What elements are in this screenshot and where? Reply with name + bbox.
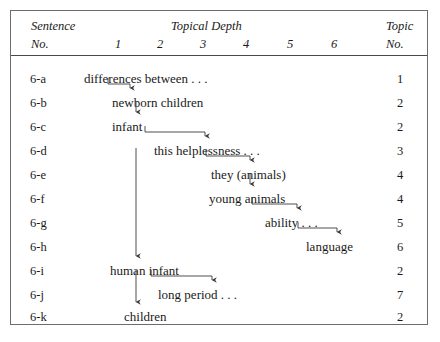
topic-number-cell: 2 [392,310,408,325]
topic-node-6k: children [124,309,167,325]
topic-number-cell: 1 [392,72,408,87]
column-header-topic-no: No. [386,37,404,52]
depth-column-2: 2 [152,37,168,52]
topic-number-cell: 2 [392,120,408,135]
topic-node-6e: they (animals) [211,167,286,183]
topic-node-6c: infant [112,119,142,135]
topic-number-cell: 2 [392,264,408,279]
topic-node-6a: differences between . . . [84,71,208,87]
topic-node-6f: young animals [209,191,285,207]
topic-number-cell: 7 [392,288,408,303]
topic-number-cell: 6 [392,240,408,255]
table-row-sentence-no: 6-f [30,192,45,207]
table-row-sentence-no: 6-b [30,96,47,111]
topic-number-cell: 2 [392,96,408,111]
topic-number-cell: 3 [392,144,408,159]
column-header-sentence: Sentence [31,19,75,34]
topic-node-6d: this helplessness . . . [154,143,260,159]
topic-number-cell: 4 [392,192,408,207]
topic-node-6h: language [306,239,353,255]
header-separator-rule [11,55,427,56]
table-row-sentence-no: 6-h [30,240,47,255]
depth-column-6: 6 [326,37,342,52]
topic-node-6j: long period . . . [158,287,237,303]
table-row-sentence-no: 6-g [30,216,47,231]
column-header-topical-depth: Topical Depth [171,19,242,34]
table-row-sentence-no: 6-e [30,168,46,183]
topic-number-cell: 5 [392,216,408,231]
column-header-sentence-no: No. [31,37,49,52]
topic-number-cell: 4 [392,168,408,183]
table-row-sentence-no: 6-c [30,120,46,135]
topical-depth-figure: Sentence No. Topical Depth Topic No. 1 2… [0,0,440,342]
depth-column-4: 4 [238,37,254,52]
topic-node-6g: ability . . . [265,215,318,231]
table-row-sentence-no: 6-j [30,288,44,303]
depth-column-3: 3 [195,37,211,52]
depth-column-1: 1 [110,37,126,52]
table-row-sentence-no: 6-i [30,264,44,279]
topic-node-6b: newborn children [112,95,203,111]
depth-column-5: 5 [282,37,298,52]
table-row-sentence-no: 6-a [30,72,46,87]
column-header-topic: Topic [386,19,413,34]
table-row-sentence-no: 6-k [30,310,47,325]
table-row-sentence-no: 6-d [30,144,47,159]
topic-node-6i: human infant [110,263,179,279]
